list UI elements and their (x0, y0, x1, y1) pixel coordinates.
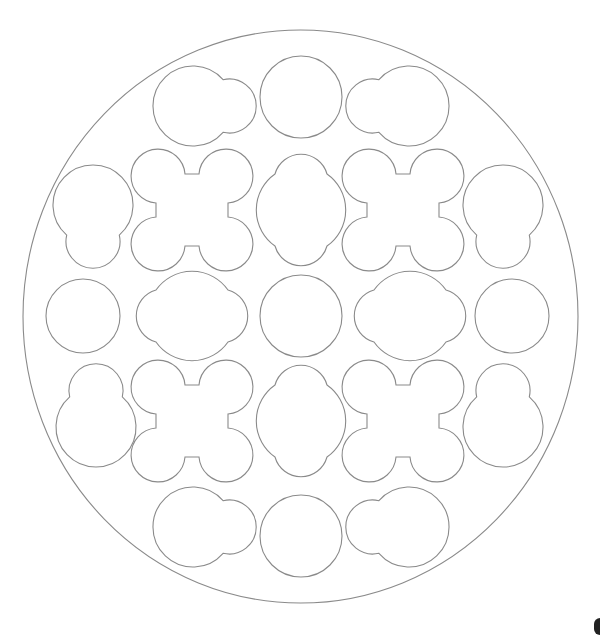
corner-glyph-fragment (594, 618, 600, 635)
shape-r3c3-circle (260, 275, 342, 357)
shape-r3c1-circle (46, 279, 120, 353)
tiling-diagram (0, 0, 600, 635)
shape-r1c3-circle (260, 56, 342, 138)
shape-r5c3-circle (260, 495, 342, 577)
shape-r3c5-circle (475, 279, 549, 353)
